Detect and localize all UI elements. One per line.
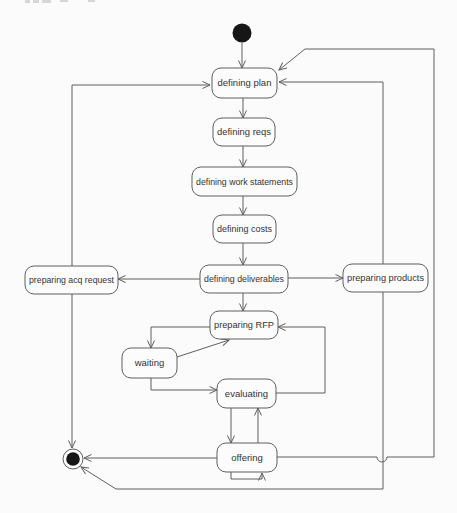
scan-artifact-top (25, 0, 95, 3)
transition-edge-offering-to-defining-plan (277, 49, 434, 462)
transition-edge-waiting-to-evaluating (151, 378, 217, 390)
transition-edge-preparing-rfp-to-waiting (151, 327, 210, 348)
state-diagram-canvas: defining plandefining reqsdefining work … (0, 0, 457, 513)
state-label-defining-reqs: defining reqs (217, 126, 271, 137)
state-label-defining-work-statements: defining work statements (196, 176, 293, 187)
nodes-layer: defining plandefining reqsdefining work … (25, 24, 428, 473)
transition-edge-evaluating-to-preparing-rfp (276, 327, 325, 393)
state-label-preparing-acq-request: preparing acq request (29, 274, 114, 285)
transition-edge-waiting-to-preparing-rfp (177, 340, 229, 357)
state-diagram: defining plandefining reqsdefining work … (0, 0, 457, 513)
state-node-preparing-rfp: preparing RFP (210, 311, 278, 339)
final-state-icon (63, 449, 83, 469)
initial-state-icon (233, 24, 252, 43)
state-label-defining-plan: defining plan (218, 77, 272, 88)
state-label-evaluating: evaluating (225, 388, 268, 399)
state-label-defining-costs: defining costs (217, 223, 272, 234)
state-label-preparing-rfp: preparing RFP (214, 319, 274, 330)
state-label-offering: offering (231, 452, 263, 463)
state-node-evaluating: evaluating (217, 379, 276, 408)
state-node-defining-deliverables: defining deliverables (200, 265, 288, 293)
state-node-defining-work-statements: defining work statements (192, 167, 297, 196)
state-node-preparing-acq-request: preparing acq request (25, 266, 118, 294)
state-label-waiting: waiting (134, 357, 165, 368)
transition-edge-offering-self-loop (231, 472, 262, 479)
state-node-defining-reqs: defining reqs (213, 118, 275, 146)
state-node-offering: offering (217, 443, 277, 472)
state-node-preparing-products: preparing products (343, 264, 428, 292)
initial-state-dot (233, 24, 252, 43)
state-label-preparing-products: preparing products (347, 272, 424, 283)
state-node-defining-costs: defining costs (213, 215, 276, 243)
state-label-defining-deliverables: defining deliverables (204, 273, 284, 284)
state-node-waiting: waiting (122, 348, 177, 378)
state-node-defining-plan: defining plan (212, 68, 277, 98)
transition-edge-preparing-acq-request-to-defining-plan (72, 85, 210, 266)
final-state-dot (66, 452, 80, 466)
